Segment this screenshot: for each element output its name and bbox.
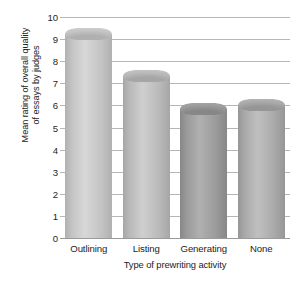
bar-top-ellipse-fill	[65, 28, 112, 40]
bar	[65, 28, 112, 238]
bar-top-ellipse	[65, 28, 112, 40]
y-axis-tick-label: 5	[36, 122, 58, 133]
y-axis-tick-label: 3	[36, 166, 58, 177]
bar-body	[123, 76, 170, 238]
bar	[238, 99, 285, 238]
bar-top-ellipse	[180, 103, 227, 115]
y-axis-tick-label: 4	[36, 144, 58, 155]
x-axis-tick-label: Outlining	[60, 243, 118, 254]
y-axis-title-line-1: Mean rating of overall quality	[20, 28, 31, 143]
x-axis-tick-labels: OutliningListingGeneratingNone	[60, 243, 290, 257]
x-axis-title: Type of prewriting activity	[60, 259, 290, 270]
bar-body	[180, 109, 227, 238]
x-axis-tick-label: None	[233, 243, 291, 254]
y-axis-tick-label: 1	[36, 210, 58, 221]
bar	[123, 70, 170, 238]
y-axis-tick-label: 8	[36, 56, 58, 67]
x-axis-tick-label: Listing	[118, 243, 176, 254]
y-axis-tick-label: 6	[36, 100, 58, 111]
y-axis-tick-label: 2	[36, 188, 58, 199]
gridline	[60, 238, 290, 239]
bar-top-ellipse-fill	[238, 99, 285, 111]
y-axis-tick-label: 9	[36, 34, 58, 45]
y-axis-tick-label: 10	[36, 12, 58, 23]
bar-top-ellipse-fill	[123, 70, 170, 82]
bar-body	[65, 34, 112, 238]
y-axis-tick-label: 0	[36, 233, 58, 244]
x-axis-tick-label: Generating	[175, 243, 233, 254]
bar	[180, 103, 227, 238]
bar-top-ellipse	[123, 70, 170, 82]
bar-top-ellipse-fill	[180, 103, 227, 115]
bar-chart: Mean rating of overall quality of essays…	[0, 0, 305, 287]
gridline	[60, 17, 290, 18]
bar-body	[238, 105, 285, 238]
y-axis-tick-label: 7	[36, 78, 58, 89]
y-axis-tick-labels: 109876543210	[36, 17, 58, 238]
plot-area	[60, 17, 290, 238]
bar-top-ellipse	[238, 99, 285, 111]
